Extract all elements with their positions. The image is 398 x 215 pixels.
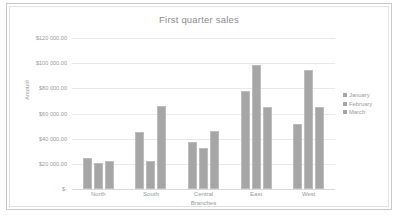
legend-item-january[interactable]: January <box>343 92 395 98</box>
x-tick-label: Central <box>194 191 213 197</box>
bar[interactable] <box>105 161 114 189</box>
x-axis-title: Branches <box>72 200 335 206</box>
chart-legend[interactable]: JanuaryFebruaryMarch <box>343 92 395 118</box>
legend-swatch-icon <box>343 93 347 97</box>
bar[interactable] <box>304 70 313 189</box>
x-tick-label: South <box>143 191 159 197</box>
axis-baseline <box>72 189 335 190</box>
y-tick-label: $120 000.00 <box>36 35 67 41</box>
y-tick-label: $40 000.00 <box>39 136 67 142</box>
bar[interactable] <box>94 163 103 189</box>
y-tick-label: $60 000.00 <box>39 111 67 117</box>
legend-label: February <box>349 101 372 107</box>
bar[interactable] <box>252 65 261 189</box>
bar[interactable] <box>241 91 250 189</box>
bar-group-central <box>177 38 230 189</box>
y-tick-label: $100 000.00 <box>36 60 67 66</box>
legend-item-february[interactable]: February <box>343 101 395 107</box>
legend-swatch-icon <box>343 102 347 106</box>
legend-label: January <box>349 92 370 98</box>
y-tick-label: $20 000.00 <box>39 161 67 167</box>
bar[interactable] <box>315 107 324 189</box>
x-tick-label: East <box>250 191 262 197</box>
bar[interactable] <box>135 132 144 190</box>
bar-group-north <box>72 38 125 189</box>
y-tick-label: $- <box>62 186 67 192</box>
y-axis-tick-labels: $-$20 000.00$40 000.00$60 000.00$80 000.… <box>10 38 70 189</box>
bar[interactable] <box>188 142 197 189</box>
bar[interactable] <box>83 158 92 189</box>
bar[interactable] <box>210 131 219 190</box>
bar[interactable] <box>263 107 272 189</box>
chart-title: First quarter sales <box>10 14 388 25</box>
bar-group-south <box>125 38 178 189</box>
legend-swatch-icon <box>343 110 347 114</box>
legend-label: March <box>349 109 365 115</box>
bar[interactable] <box>199 148 208 189</box>
bar[interactable] <box>157 106 166 189</box>
x-tick-label: West <box>302 191 316 197</box>
legend-item-march[interactable]: March <box>343 109 395 115</box>
plot-area <box>72 38 335 189</box>
y-tick-label: $80 000.00 <box>39 85 67 91</box>
bar[interactable] <box>293 124 302 189</box>
chart-frame[interactable]: First quarter sales Amount $-$20 000.00$… <box>6 3 392 210</box>
bar-group-east <box>230 38 283 189</box>
bar[interactable] <box>146 161 155 189</box>
chart-plot-frame[interactable]: First quarter sales Amount $-$20 000.00$… <box>9 6 389 207</box>
x-tick-label: North <box>91 191 106 197</box>
bar-group-west <box>282 38 335 189</box>
